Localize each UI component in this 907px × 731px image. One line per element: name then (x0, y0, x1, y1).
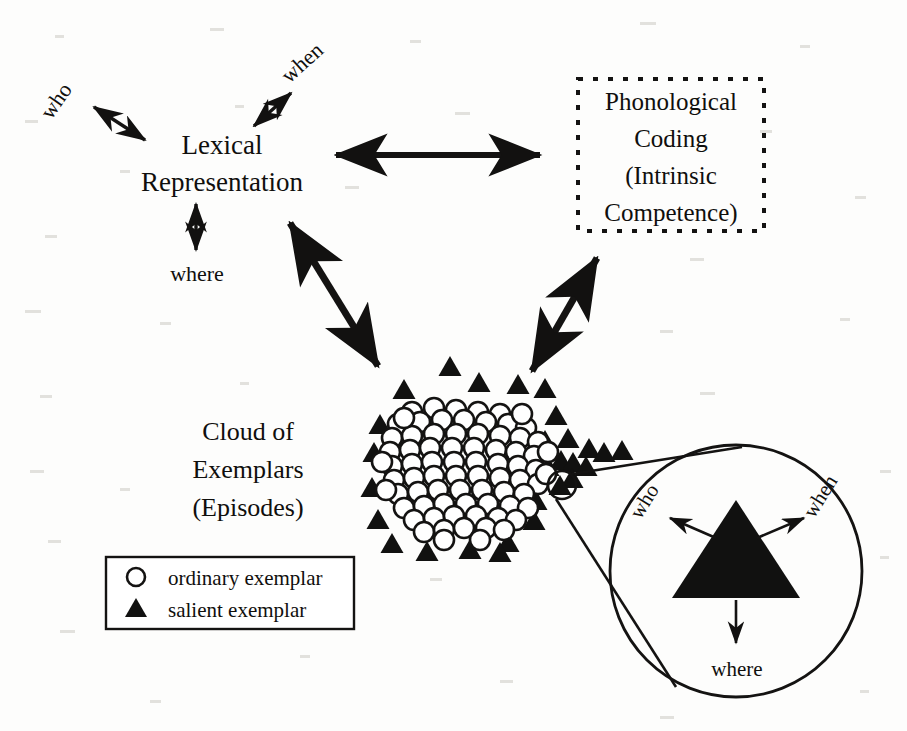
cloud-label-line1: Cloud of (202, 417, 294, 446)
ordinary-exemplar-marker (470, 530, 490, 550)
salient-exemplar-marker (468, 372, 491, 392)
ordinary-exemplar-marker (494, 520, 514, 540)
salient-exemplar-marker (534, 378, 557, 398)
cloud-label-line3: (Episodes) (192, 493, 303, 522)
ordinary-exemplar-marker (372, 452, 392, 472)
ordinary-exemplar-marker (414, 522, 434, 542)
ordinary-exemplar-marker (394, 408, 414, 428)
lexical-role-when: when (254, 37, 328, 126)
lexical-role-label-where: where (170, 261, 224, 286)
ordinary-exemplar-marker (376, 480, 396, 500)
salient-exemplar-marker (557, 428, 580, 448)
cloud-of-exemplars-label: Cloud of Exemplars (Episodes) (192, 417, 303, 522)
ordinary-exemplar-marker (512, 404, 532, 424)
diagram-svg: Lexical Representation who when where Ph… (0, 0, 907, 731)
lexical-representation-node: Lexical Representation (141, 130, 303, 197)
magnified-salient-triangle (672, 500, 800, 598)
phonological-coding-line1: Phonological (605, 88, 737, 115)
salient-exemplar-marker (381, 533, 404, 553)
salient-exemplar-marker (507, 374, 530, 394)
salient-exemplar-marker (439, 356, 462, 376)
phonological-coding-line2: Coding (634, 125, 708, 152)
salient-exemplar-marker (611, 440, 634, 460)
legend-symbol-ordinary-exemplar (127, 568, 145, 586)
figure-canvas: Lexical Representation who when where Ph… (0, 0, 907, 731)
lexical-representation-line2: Representation (141, 167, 303, 197)
exemplar-legend: ordinary exemplar salient exemplar (106, 557, 354, 629)
phonological-coding-node: Phonological Coding (Intrinsic Competenc… (578, 79, 764, 231)
inset-when-arrow (757, 518, 804, 538)
when-arrow (254, 93, 291, 126)
lexical-representation-line1: Lexical (182, 130, 263, 160)
lexical-role-where: where (170, 204, 224, 286)
ordinary-exemplar-marker (538, 442, 558, 462)
magnifier-tangent-lower (556, 499, 676, 687)
lexical-role-label-who: who (35, 78, 77, 123)
magnifier-callout: who when where (548, 445, 862, 697)
inset-role-label-where: where (711, 657, 762, 681)
ordinary-exemplar-marker (434, 530, 454, 550)
inset-role-label-who: who (624, 480, 664, 523)
lexical-role-label-when: when (276, 37, 328, 87)
who-arrow (94, 107, 145, 140)
salient-exemplar-marker (393, 379, 416, 399)
inset-who-arrow (670, 518, 716, 538)
phonological-coding-line4: Competence) (604, 199, 737, 227)
salient-exemplar-marker (545, 405, 568, 425)
connector-lexical-to-cloud (290, 223, 378, 366)
legend-label-ordinary-exemplar: ordinary exemplar (168, 566, 323, 590)
cloud-label-line2: Exemplars (192, 455, 303, 484)
phonological-coding-line3: (Intrinsic (625, 162, 717, 190)
connector-phonological-to-cloud (532, 258, 597, 371)
lexical-role-who: who (35, 78, 145, 140)
salient-exemplar-marker (367, 509, 390, 529)
legend-label-salient-exemplar: salient exemplar (168, 598, 306, 622)
